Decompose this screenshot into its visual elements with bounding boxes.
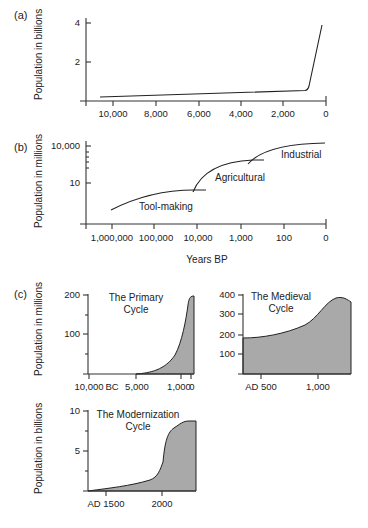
modernization-ytick-5: 5: [75, 445, 80, 456]
medieval-cycle-chart: 400 300 200 100 AD 500 1,000 The Medieva…: [219, 289, 351, 392]
panel-a-ytick-4: 4: [75, 17, 80, 28]
panel-b-xtick: 0: [323, 232, 328, 243]
primary-title: The Primary: [109, 292, 163, 303]
medieval-cycle-area: [243, 297, 351, 374]
medieval-ytick-400: 400: [219, 289, 235, 300]
panel-a-xtick: 2,000: [271, 108, 295, 119]
panel-a-xtick: 8,000: [144, 108, 168, 119]
panel-a-xtick: 0: [323, 108, 328, 119]
panel-a-letter: (a): [14, 9, 27, 21]
panel-c-letter: (c): [14, 288, 27, 300]
primary-xtick: 0: [189, 381, 194, 392]
panel-b-ylabel: Population in millions: [33, 134, 44, 228]
modernization-title-2: Cycle: [125, 421, 150, 432]
panel-b-letter: (b): [14, 141, 27, 153]
panel-b-xtick: 1,000,000: [91, 232, 133, 243]
modernization-xtick: AD 1500: [88, 498, 125, 509]
primary-xtick: BC: [105, 381, 118, 392]
modernization-ytick-10: 10: [69, 405, 80, 416]
panel-a-xtick: 10,000: [98, 108, 127, 119]
modernization-title: The Modernization: [97, 409, 180, 420]
panel-b-xtick: 1,000: [229, 232, 253, 243]
panel-b-xtick: 10,000: [183, 232, 212, 243]
primary-xtick: 1,000: [167, 381, 191, 392]
agricultural-label: Agricultural: [215, 172, 265, 183]
panel-b-xtick: 100: [276, 232, 292, 243]
panel-a: (a) Population in billions 4 2 10,000 8,…: [14, 9, 329, 119]
panel-c-ylabel-millions: Population in millions: [33, 282, 44, 376]
panel-b-ytick-10: 10: [69, 177, 80, 188]
panel-a-population-curve: [100, 25, 322, 97]
medieval-ytick-200: 200: [219, 329, 235, 340]
panel-b-xtick: 100,000: [139, 232, 173, 243]
panel-a-xtick: 4,000: [229, 108, 253, 119]
population-cycles-figure: (a) Population in billions 4 2 10,000 8,…: [0, 0, 368, 528]
panel-a-xtick: 6,000: [187, 108, 211, 119]
medieval-ytick-100: 100: [219, 348, 235, 359]
medieval-ytick-300: 300: [219, 308, 235, 319]
panel-a-ylabel: Population in billions: [33, 9, 44, 100]
primary-xtick: 10,000: [74, 381, 103, 392]
primary-title-2: Cycle: [123, 304, 148, 315]
primary-ytick-200: 200: [64, 289, 80, 300]
medieval-title-2: Cycle: [268, 303, 293, 314]
panel-b-xlabel: Years BP: [186, 254, 228, 265]
primary-ytick-100: 100: [64, 328, 80, 339]
panel-b-ytick-10000: 10,000: [51, 140, 80, 151]
panel-c: (c) Population in millions Population in…: [14, 282, 351, 509]
panel-b: (b) Population in millions 10,000 10 1,0…: [14, 134, 329, 265]
industrial-label: Industrial: [281, 149, 322, 160]
primary-cycle-chart: 200 100 10,000 BC 5,000 1,000 0 The Prim…: [64, 289, 195, 392]
medieval-xtick: AD 500: [245, 381, 277, 392]
medieval-title: The Medieval: [251, 291, 311, 302]
medieval-xtick: 1,000: [306, 381, 330, 392]
panel-c-ylabel-billions: Population in billions: [33, 403, 44, 494]
panel-a-ytick-2: 2: [75, 56, 80, 67]
primary-xtick: 5,000: [125, 381, 149, 392]
modernization-cycle-chart: 10 5 AD 1500 2000 The Modernization Cycl…: [69, 405, 196, 509]
tool-making-label: Tool-making: [139, 201, 193, 212]
modernization-xtick: 2000: [151, 498, 172, 509]
